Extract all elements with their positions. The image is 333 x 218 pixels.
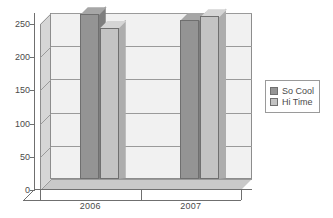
x-axis-tick (241, 190, 242, 200)
x-axis-line (34, 189, 252, 190)
bar-chart-3d: 050100150200250 20062007 So Cool Hi Time (0, 0, 333, 218)
y-axis-tick-label: 100 (0, 119, 30, 128)
legend-swatch-so-cool (270, 87, 278, 95)
y-axis-tick-label: 200 (0, 53, 30, 62)
x-axis-category-label: 2006 (80, 201, 101, 211)
x-axis-tick (40, 190, 41, 200)
x-axis-front-line (23, 200, 241, 201)
legend-item: So Cool (270, 86, 314, 96)
legend-label-hi-time: Hi Time (282, 97, 313, 107)
y-axis-tick-label: 50 (0, 152, 30, 161)
chart-legend: So Cool Hi Time (265, 80, 320, 113)
x-axis-category-label: 2007 (180, 201, 201, 211)
legend-item: Hi Time (270, 97, 314, 107)
legend-swatch-hi-time (270, 98, 278, 106)
legend-label-so-cool: So Cool (282, 86, 314, 96)
x-axis-depth-connector (23, 189, 35, 201)
x-axis-tick (141, 190, 142, 200)
y-axis-tick-label: 250 (0, 20, 30, 29)
y-axis-tick-label: 150 (0, 86, 30, 95)
